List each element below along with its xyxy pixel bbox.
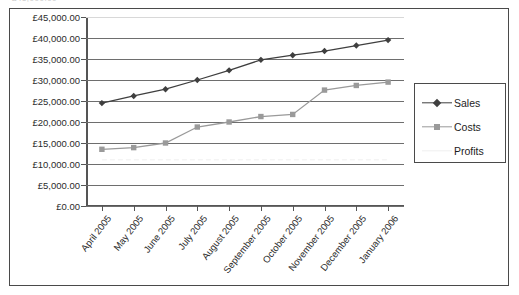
x-axis-tick <box>102 206 103 211</box>
x-axis-label: May 2005 <box>111 213 145 253</box>
data-point-marker <box>385 37 391 43</box>
data-point-marker <box>321 48 327 54</box>
data-point-marker <box>322 87 327 92</box>
y-axis-label: £40,000.00 <box>32 33 80 44</box>
data-point-marker <box>195 124 200 129</box>
x-axis-label: July 2005 <box>175 213 209 252</box>
y-axis-label: £10,000.00 <box>32 159 80 170</box>
data-point-marker <box>226 119 231 124</box>
x-axis-tick <box>261 206 262 211</box>
data-point-marker <box>258 57 264 63</box>
series-line-costs <box>102 82 388 149</box>
chart-legend: SalesCostsProfits <box>414 83 506 163</box>
data-series-layer <box>86 17 404 207</box>
series-line-sales <box>102 40 388 103</box>
x-axis-tick <box>134 206 135 211</box>
y-axis-label: £35,000.00 <box>32 54 80 65</box>
legend-key-costs <box>420 118 454 136</box>
data-point-marker <box>290 112 295 117</box>
x-axis-tick <box>356 206 357 211</box>
y-axis-label: £0.00 <box>56 201 80 212</box>
legend-key-profits <box>420 142 454 160</box>
chart-screenshot: £45,000.00 £45,000.00£40,000.00£35,000.0… <box>0 0 519 295</box>
data-point-marker <box>162 86 168 92</box>
x-axis-tick <box>388 206 389 211</box>
legend-label: Profits <box>454 145 484 157</box>
x-axis-tick <box>325 206 326 211</box>
x-axis-label: April 2005 <box>79 213 114 253</box>
x-axis-label: June 2005 <box>141 213 177 255</box>
data-point-marker <box>131 93 137 99</box>
data-point-marker <box>226 67 232 73</box>
data-point-marker <box>290 52 296 58</box>
y-axis-label: £25,000.00 <box>32 96 80 107</box>
x-axis-tick <box>293 206 294 211</box>
legend-item-sales[interactable]: Sales <box>415 90 505 116</box>
data-point-marker <box>99 147 104 152</box>
legend-item-profits[interactable]: Profits <box>415 138 505 164</box>
legend-label: Sales <box>454 97 480 109</box>
data-point-marker <box>354 83 359 88</box>
data-point-marker <box>163 140 168 145</box>
y-axis-label: £5,000.00 <box>38 180 80 191</box>
y-axis-labels: £45,000.00£40,000.00£35,000.00£30,000.00… <box>10 17 80 207</box>
data-point-marker <box>131 145 136 150</box>
y-axis-label: £20,000.00 <box>32 117 80 128</box>
y-axis-label: £45,000.00 <box>32 12 80 23</box>
x-axis-tick <box>197 206 198 211</box>
data-point-marker <box>258 114 263 119</box>
legend-label: Costs <box>454 121 481 133</box>
y-axis-label: £30,000.00 <box>32 75 80 86</box>
y-axis-label: £15,000.00 <box>32 138 80 149</box>
data-point-marker <box>353 42 359 48</box>
plot-area <box>86 17 404 206</box>
data-point-marker <box>194 77 200 83</box>
data-point-marker <box>99 100 105 106</box>
x-axis-tick <box>229 206 230 211</box>
clipped-header-text: £45,000.00 <box>12 0 57 3</box>
legend-key-sales <box>420 94 454 112</box>
data-point-marker <box>385 79 390 84</box>
legend-item-costs[interactable]: Costs <box>415 114 505 140</box>
x-axis-tick <box>166 206 167 211</box>
chart-frame: £45,000.00£40,000.00£35,000.00£30,000.00… <box>9 8 509 286</box>
